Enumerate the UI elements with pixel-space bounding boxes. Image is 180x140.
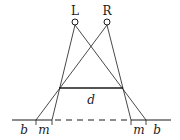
outer-right-label: b bbox=[153, 123, 161, 137]
outer-left-label: b bbox=[20, 123, 28, 137]
left-eye-icon bbox=[72, 19, 78, 25]
right-eye-icon bbox=[104, 19, 110, 25]
inner-right-label: m bbox=[133, 123, 144, 137]
stereo-diagram: L R d b m m b bbox=[0, 0, 180, 140]
left-eye-label: L bbox=[71, 4, 79, 18]
distance-label: d bbox=[87, 93, 95, 107]
inner-left-label: m bbox=[38, 123, 49, 137]
right-eye-label: R bbox=[102, 4, 112, 18]
